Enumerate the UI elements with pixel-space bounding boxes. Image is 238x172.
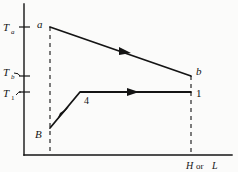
diagram-canvas: T a T b T 1 a b 1 B 4 H or L: [0, 0, 238, 172]
y-tick-label-T1-subscript: 1: [11, 94, 15, 102]
point-label-4: 4: [84, 95, 89, 106]
guide-lines: [50, 27, 191, 155]
y-tick-label-T1-symbol: T: [3, 87, 10, 99]
y-tick-label-Tb-symbol: T: [3, 66, 10, 78]
cold-stream-plateau-arrow: [127, 88, 139, 96]
x-axis-label-group: H or L: [185, 160, 218, 171]
point-label-a: a: [37, 18, 43, 30]
y-axis-ticks: [14, 27, 30, 95]
y-tick-label-Ta-subscript: a: [11, 28, 15, 36]
y-tick-label-Tb-subscript: b: [11, 73, 15, 81]
hot-stream-curve: [50, 27, 191, 76]
x-axis-label-or: or: [196, 161, 204, 171]
leader-T1: [16, 92, 21, 95]
x-axis-label-L: L: [211, 160, 218, 171]
y-tick-labels: T a T b T 1: [3, 21, 15, 102]
point-label-B: B: [35, 128, 42, 140]
y-tick-label-Ta-symbol: T: [3, 21, 10, 33]
cold-stream-curve: [50, 88, 191, 128]
axis-group: [24, 4, 232, 155]
x-axis-label-H: H: [185, 160, 194, 171]
point-label-b: b: [196, 65, 202, 77]
cold-stream-polyline: [50, 92, 191, 128]
point-annotations: a b 1 B 4: [35, 18, 202, 140]
temperature-enthalpy-figure: T a T b T 1 a b 1 B 4 H or L: [0, 0, 238, 172]
point-label-1: 1: [196, 87, 202, 99]
